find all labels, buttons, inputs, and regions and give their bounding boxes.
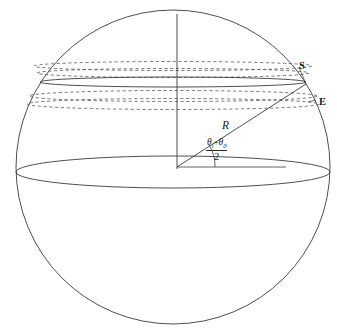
dashed-latitude-circle-upper-2 [37, 69, 309, 78]
dashed-latitude-circle-upper-1 [34, 62, 312, 71]
diagram-canvas [0, 0, 337, 329]
radius-line [177, 84, 306, 167]
leader-line-e [308, 100, 316, 102]
equatorial-ellipse [16, 156, 330, 188]
sphere-diagram: S E R θi+θ0 2 [0, 0, 337, 329]
solid-latitude-circle [40, 77, 306, 87]
